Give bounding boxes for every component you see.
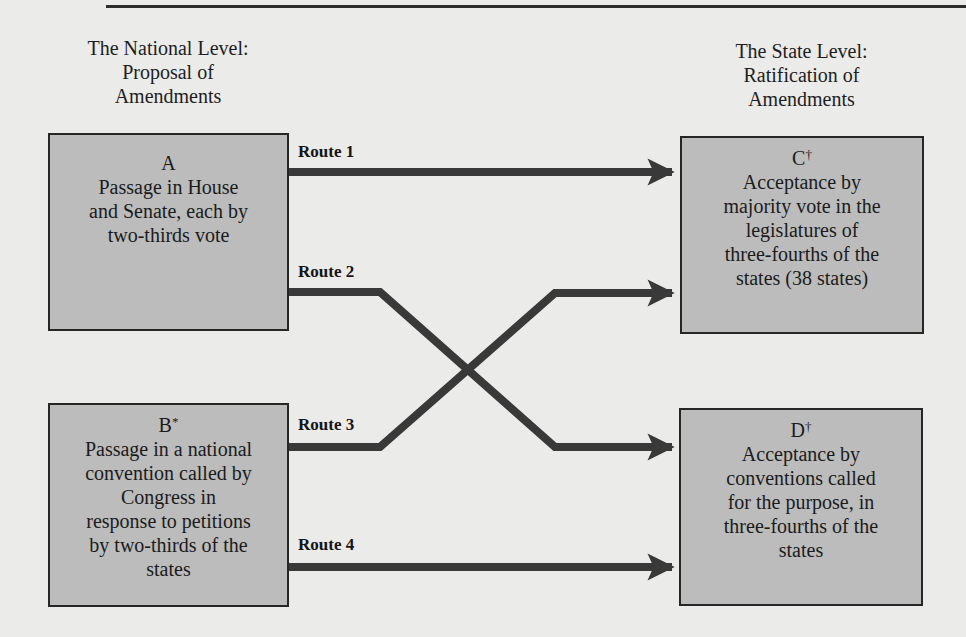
box-text-line: three-fourths of the xyxy=(725,242,879,266)
box-text-line: states xyxy=(146,557,190,581)
heading-line: Proposal of xyxy=(48,60,288,84)
box-letter: D† xyxy=(791,418,812,442)
box-b-national-convention: B* Passage in a national convention call… xyxy=(48,403,289,607)
box-text-line: Passage in a national xyxy=(85,437,252,461)
box-letter: A xyxy=(161,151,175,175)
route-2-label: Route 2 xyxy=(298,262,354,282)
heading-line: Amendments xyxy=(48,84,288,108)
heading-line: Ratification of xyxy=(680,63,923,87)
box-text-line: response to petitions xyxy=(86,509,250,533)
box-text-line: Acceptance by xyxy=(742,442,860,466)
box-text-line: and Senate, each by xyxy=(89,199,248,223)
box-text-line: by two-thirds of the xyxy=(89,533,247,557)
national-level-heading: The National Level: Proposal of Amendmen… xyxy=(48,36,288,108)
box-d-state-conventions: D† Acceptance by conventions called for … xyxy=(679,408,923,606)
heading-line: The National Level: xyxy=(48,36,288,60)
box-text-line: majority vote in the xyxy=(723,194,880,218)
box-text-line: three-fourths of the xyxy=(724,514,878,538)
box-text-line: states (38 states) xyxy=(736,266,868,290)
heading-line: Amendments xyxy=(680,87,923,111)
box-text-line: for the purpose, in xyxy=(728,490,875,514)
box-text-line: convention called by xyxy=(85,461,252,485)
box-text-line: Passage in House xyxy=(99,175,239,199)
box-text-line: Acceptance by xyxy=(743,170,861,194)
route-1-label: Route 1 xyxy=(298,142,354,162)
box-a-house-senate-passage: A Passage in House and Senate, each by t… xyxy=(48,133,289,331)
route-3-label: Route 3 xyxy=(298,415,354,435)
heading-line: The State Level: xyxy=(680,39,923,63)
state-level-heading: The State Level: Ratification of Amendme… xyxy=(680,39,923,111)
box-text-line: two-thirds vote xyxy=(108,223,230,247)
box-text-line: states xyxy=(779,538,823,562)
box-c-state-legislatures: C† Acceptance by majority vote in the le… xyxy=(680,136,924,334)
box-text-line: conventions called xyxy=(726,466,875,490)
box-letter: C† xyxy=(792,146,812,170)
box-letter: B* xyxy=(159,413,179,437)
box-text-line: legislatures of xyxy=(746,218,859,242)
box-text-line: Congress in xyxy=(121,485,216,509)
route-4-label: Route 4 xyxy=(298,535,354,555)
top-rule xyxy=(106,5,966,8)
